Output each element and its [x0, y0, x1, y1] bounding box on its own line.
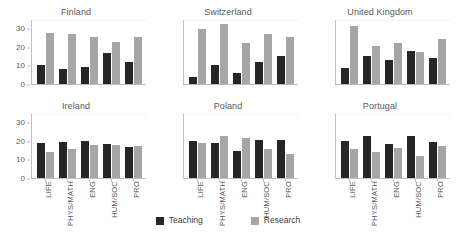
y-tick-label: 0 [21, 81, 25, 89]
legend-label: Teaching [169, 216, 203, 225]
bar-research [286, 154, 294, 178]
bar-teaching [277, 140, 285, 178]
plot-area [336, 20, 450, 84]
panel-title: United Kingdom [304, 6, 456, 18]
bar-teaching [37, 65, 45, 84]
panel-title: Poland [152, 100, 304, 112]
x-tick-label: ENG [89, 181, 97, 198]
bar-research [286, 37, 294, 84]
bar-research [438, 39, 446, 84]
bar-group [274, 20, 296, 84]
x-axis-line [31, 84, 146, 85]
panel-grid: Finland 0 10 20 30 Switzerland [0, 6, 456, 210]
plot-area [336, 114, 450, 178]
panel-switzerland: Switzerland [152, 6, 304, 100]
y-tick-label: 30 [16, 119, 25, 127]
bar-research [90, 37, 98, 84]
bar-group [404, 114, 426, 178]
bar-research [90, 145, 98, 178]
bar-group [78, 114, 100, 178]
legend-label: Research [264, 216, 300, 225]
x-tick-label: LIFE [197, 181, 205, 198]
bar-group [78, 20, 100, 84]
bar-groups [336, 20, 450, 84]
x-tick-label: HUM/SOC [263, 181, 271, 218]
plot-area [32, 20, 146, 84]
bar-group [382, 20, 404, 84]
bar-teaching [37, 143, 45, 178]
panel-portugal: Portugal LIFEPHYS/MATHENGHUM/SOCPRO [304, 100, 456, 210]
bar-research [68, 34, 76, 84]
bar-teaching [385, 60, 393, 84]
legend-item-research: Research [251, 216, 300, 225]
bar-research [68, 149, 76, 178]
x-tick-label: LIFE [349, 181, 357, 198]
bar-teaching [341, 68, 349, 84]
bar-group [252, 114, 274, 178]
bar-group [360, 20, 382, 84]
bar-group [208, 114, 230, 178]
bar-research [198, 29, 206, 84]
bar-group [338, 20, 360, 84]
y-tick-label: 10 [16, 156, 25, 164]
bar-research [416, 52, 424, 84]
bar-teaching [189, 77, 197, 84]
plot-area [32, 114, 146, 178]
bar-group [252, 20, 274, 84]
bar-teaching [385, 144, 393, 178]
bar-group [100, 20, 122, 84]
bar-research [350, 26, 358, 85]
bar-research [134, 146, 142, 178]
bar-teaching [341, 141, 349, 178]
x-tick-label: HUM/SOC [111, 181, 119, 218]
small-multiples-bar-chart: Finland 0 10 20 30 Switzerland [0, 0, 456, 238]
bar-group [230, 114, 252, 178]
plot-area [184, 20, 298, 84]
bar-teaching [59, 142, 67, 178]
bar-teaching [407, 51, 415, 84]
bar-research [416, 156, 424, 178]
bar-teaching [255, 62, 263, 84]
x-tick-label: PRO [437, 181, 445, 198]
legend-swatch-icon [156, 217, 164, 225]
bar-teaching [59, 69, 67, 84]
x-tick-label: ENG [241, 181, 249, 198]
bar-research [242, 43, 250, 84]
bar-group [426, 114, 448, 178]
bar-research [220, 136, 228, 178]
bar-teaching [189, 141, 197, 178]
bar-group [100, 114, 122, 178]
bar-teaching [125, 62, 133, 84]
bar-teaching [211, 65, 219, 84]
bar-research [112, 42, 120, 84]
bar-teaching [81, 67, 89, 84]
bar-research [394, 148, 402, 178]
bar-teaching [407, 136, 415, 178]
bar-teaching [103, 144, 111, 178]
bar-teaching [429, 58, 437, 84]
bar-groups [32, 114, 146, 178]
bar-group [56, 20, 78, 84]
bar-teaching [233, 151, 241, 178]
panel-title: Finland [0, 6, 152, 18]
bar-research [438, 146, 446, 178]
y-tick-label: 10 [16, 62, 25, 70]
y-axis-ticks: 0 10 20 30 [0, 114, 29, 179]
x-tick-label: PRO [285, 181, 293, 198]
bar-group [230, 20, 252, 84]
bar-teaching [363, 136, 371, 178]
bar-research [46, 152, 54, 178]
bar-group [186, 114, 208, 178]
bar-group [122, 114, 144, 178]
y-tick-label: 20 [16, 44, 25, 52]
panel-title: Portugal [304, 100, 456, 112]
x-tick-label: PRO [133, 181, 141, 198]
bar-groups [184, 20, 298, 84]
bar-groups [184, 114, 298, 178]
bar-teaching [255, 140, 263, 178]
panel-poland: Poland LIFEPHYS/MATHENGHUM/SOCPRO [152, 100, 304, 210]
bar-teaching [125, 147, 133, 178]
legend-item-teaching: Teaching [156, 216, 203, 225]
bar-group [34, 20, 56, 84]
x-tick-label: HUM/SOC [415, 181, 423, 218]
